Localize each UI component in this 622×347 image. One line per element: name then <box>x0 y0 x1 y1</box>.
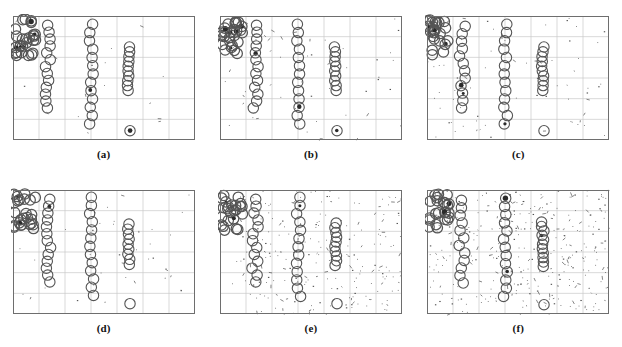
panel-c: (c) <box>415 0 622 174</box>
scatter-plot-f <box>425 188 611 316</box>
panel-f: (f) <box>415 174 622 347</box>
panel-caption-f: (f) <box>513 322 525 334</box>
scatter-plot-a <box>11 14 197 142</box>
panel-b: (b) <box>207 0 414 174</box>
plot-area-c <box>425 14 611 142</box>
panel-a: (a) <box>0 0 207 174</box>
panel-caption-e: (e) <box>305 322 318 334</box>
plot-area-d <box>11 188 197 316</box>
panel-caption-b: (b) <box>304 148 318 160</box>
figure-panel-grid: (a) (b) (c) (d) (e) <box>0 0 622 347</box>
plot-area-b <box>218 14 404 142</box>
panel-e: (e) <box>207 174 414 347</box>
scatter-plot-b <box>218 14 404 142</box>
panel-caption-d: (d) <box>97 322 111 334</box>
plot-area-e <box>218 188 404 316</box>
plot-area-f <box>425 188 611 316</box>
plot-area-a <box>11 14 197 142</box>
scatter-plot-d <box>11 188 197 316</box>
scatter-plot-e <box>218 188 404 316</box>
panel-grid: (a) (b) (c) (d) (e) <box>0 0 622 347</box>
panel-caption-c: (c) <box>512 148 525 160</box>
panel-d: (d) <box>0 174 207 347</box>
panel-caption-a: (a) <box>97 148 110 160</box>
scatter-plot-c <box>425 14 611 142</box>
